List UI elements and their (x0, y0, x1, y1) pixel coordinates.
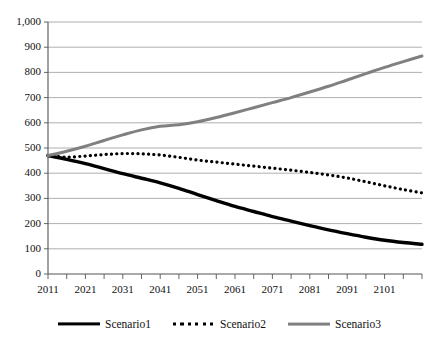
y-tick-label: 900 (2, 41, 41, 52)
legend-label-scenario1: Scenario1 (105, 318, 151, 330)
legend-swatch-scenario1-icon (58, 318, 100, 330)
chart-legend: Scenario1 Scenario2 Scenario3 (0, 312, 439, 336)
legend-item-scenario3[interactable]: Scenario3 (288, 318, 381, 330)
series-lines (48, 56, 422, 244)
x-tick-marks (44, 22, 422, 279)
legend-label-scenario3: Scenario3 (335, 318, 381, 330)
legend-swatch-scenario2-icon (173, 318, 215, 330)
series-line-scenario3 (48, 56, 422, 156)
line-chart: 01002003004005006007008009001,000 201120… (0, 0, 439, 347)
legend-label-scenario2: Scenario2 (220, 318, 266, 330)
y-tick-label: 700 (2, 92, 41, 103)
y-tick-label: 100 (2, 243, 41, 254)
y-tick-label: 0 (2, 268, 41, 279)
legend-item-scenario2[interactable]: Scenario2 (173, 318, 266, 330)
legend-item-scenario1[interactable]: Scenario1 (58, 318, 151, 330)
y-tick-label: 800 (2, 66, 41, 77)
y-tick-label: 200 (2, 218, 41, 229)
series-line-scenario1 (48, 156, 422, 245)
y-tick-label: 400 (2, 167, 41, 178)
x-tick-label: 2101 (362, 284, 408, 295)
y-tick-label: 1,000 (2, 16, 41, 27)
y-tick-label: 500 (2, 142, 41, 153)
legend-swatch-scenario3-icon (288, 318, 330, 330)
y-tick-label: 600 (2, 117, 41, 128)
y-tick-label: 300 (2, 192, 41, 203)
